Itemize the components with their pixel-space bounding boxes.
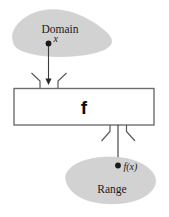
- domain-label: Domain: [41, 23, 78, 35]
- domain-point-dot: [46, 41, 52, 47]
- range-point-label: f(x): [124, 161, 139, 173]
- diagram-canvas: Domain x f f(x) Range: [0, 0, 169, 217]
- machine-label: f: [81, 97, 88, 118]
- domain-point-label: x: [53, 33, 59, 44]
- output-chute-left-leg: [102, 125, 111, 141]
- range-blob-shape: [66, 157, 156, 204]
- input-arrow-head: [45, 79, 51, 86]
- output-chute-right-leg: [127, 125, 136, 141]
- input-hopper-right-leg: [58, 73, 67, 89]
- input-hopper-left-leg: [32, 73, 41, 89]
- range-label: Range: [97, 183, 126, 196]
- range-point-dot: [115, 163, 121, 169]
- function-machine-diagram: Domain x f f(x) Range: [0, 0, 169, 217]
